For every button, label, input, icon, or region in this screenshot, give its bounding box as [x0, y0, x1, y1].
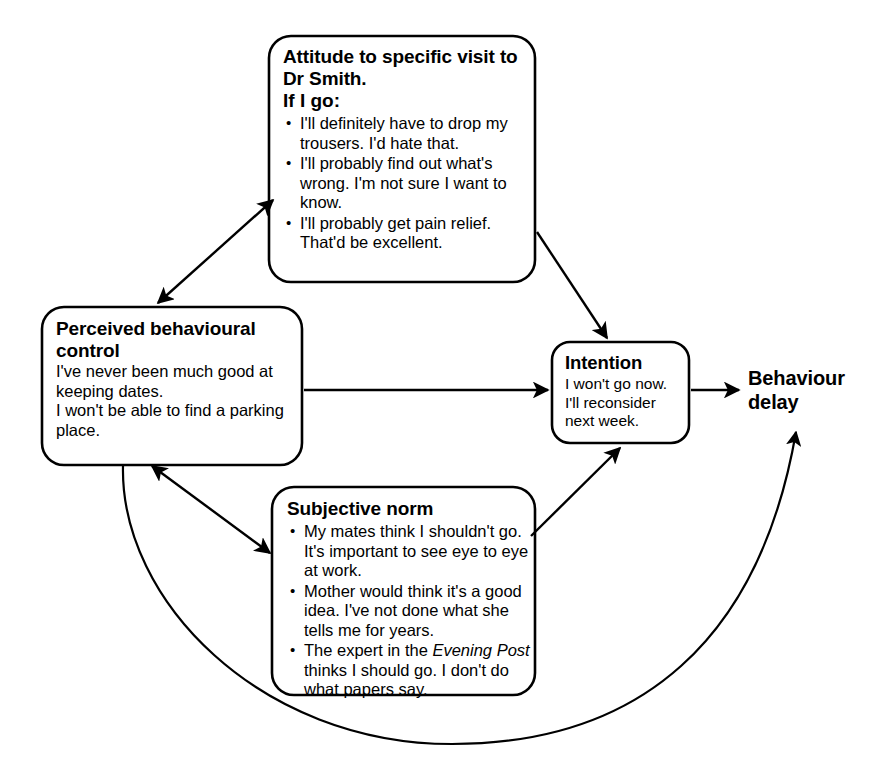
bullet-text-emphasis: Evening Post	[432, 641, 529, 659]
intention-body: I won't go now. I'll reconsider next wee…	[565, 375, 690, 431]
node-perceived-behavioural-control[interactable]: Perceived behavioural control I've never…	[56, 318, 301, 440]
bullet-text-pre: Mother would think it's a good idea. I'v…	[304, 582, 522, 639]
diagram-canvas: Attitude to specific visit to Dr Smith. …	[0, 0, 889, 774]
subjective-title: Subjective norm	[287, 498, 531, 520]
outcome-title-line2: delay	[748, 390, 878, 414]
intention-line: next week.	[565, 412, 690, 431]
attitude-title: Attitude to specific visit to Dr Smith.	[283, 46, 526, 90]
list-item: I'll probably find out what's wrong. I'm…	[283, 154, 526, 213]
connector-attitude-pbc	[158, 200, 273, 303]
bullet-text-pre: My mates think I shouldn't go. It's impo…	[304, 522, 528, 579]
subjective-bullet-list: My mates think I shouldn't go. It's impo…	[287, 522, 531, 700]
pbc-title: Perceived behavioural control	[56, 318, 301, 362]
pbc-body: I've never been much good at keeping dat…	[56, 362, 301, 440]
attitude-bullet-list: I'll definitely have to drop my trousers…	[283, 114, 526, 253]
attitude-subtitle: If I go:	[283, 90, 526, 112]
intention-line: I'll reconsider	[565, 394, 690, 413]
bullet-text-post: thinks I should go. I don't do what pape…	[304, 661, 509, 699]
connector-subjective-intention	[531, 448, 620, 536]
pbc-line: I won't be able to find a parking place.	[56, 401, 301, 440]
intention-line: I won't go now.	[565, 375, 690, 394]
bullet-text-pre: The expert in the	[304, 641, 432, 659]
list-item: I'll definitely have to drop my trousers…	[283, 114, 526, 153]
list-item: I'll probably get pain relief. That'd be…	[283, 214, 526, 253]
node-attitude[interactable]: Attitude to specific visit to Dr Smith. …	[283, 46, 526, 254]
list-item: The expert in the Evening Post thinks I …	[287, 641, 531, 700]
connector-attitude-intention	[537, 232, 607, 338]
list-item: My mates think I shouldn't go. It's impo…	[287, 522, 531, 581]
connector-pbc-subjective	[152, 466, 270, 553]
list-item: Mother would think it's a good idea. I'v…	[287, 582, 531, 641]
outcome-title-line1: Behaviour	[748, 366, 878, 390]
node-behaviour-delay: Behaviour delay	[748, 366, 878, 414]
node-intention[interactable]: Intention I won't go now. I'll reconside…	[565, 352, 690, 431]
node-subjective-norm[interactable]: Subjective norm My mates think I shouldn…	[287, 498, 531, 701]
pbc-line: I've never been much good at keeping dat…	[56, 362, 301, 401]
intention-title: Intention	[565, 352, 690, 373]
